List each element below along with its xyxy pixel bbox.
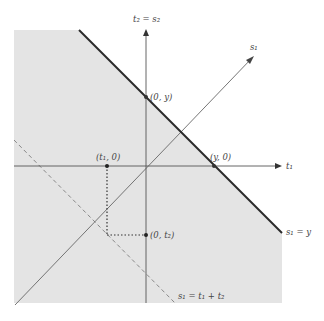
- s1-axis-label: s₁: [250, 42, 258, 52]
- t1-axis-arrow-icon: [275, 163, 282, 169]
- point-t1-zero: [105, 164, 109, 168]
- point-y-zero: [212, 164, 216, 168]
- label-t1-zero: (t₁, 0): [96, 152, 120, 162]
- label-boundary-s1-eq-y: s₁ = y: [286, 227, 311, 237]
- label-dashed-s1-eq-t1-plus-t2: s₁ = t₁ + t₂: [178, 291, 225, 301]
- t1-axis-label: t₁: [286, 161, 293, 171]
- label-y-zero: (y, 0): [210, 152, 231, 162]
- point-zero-t2: [144, 233, 148, 237]
- label-zero-y: (0, y): [150, 92, 172, 102]
- t2-axis-arrow-icon: [143, 29, 149, 36]
- diagram-canvas: t₂ = s₂ t₁ s₁ (0, y) (y, 0) (t₁, 0) (0, …: [0, 0, 324, 321]
- label-zero-t2: (0, t₂): [150, 230, 174, 240]
- t2-axis-label: t₂ = s₂: [133, 14, 161, 24]
- point-zero-y: [144, 95, 148, 99]
